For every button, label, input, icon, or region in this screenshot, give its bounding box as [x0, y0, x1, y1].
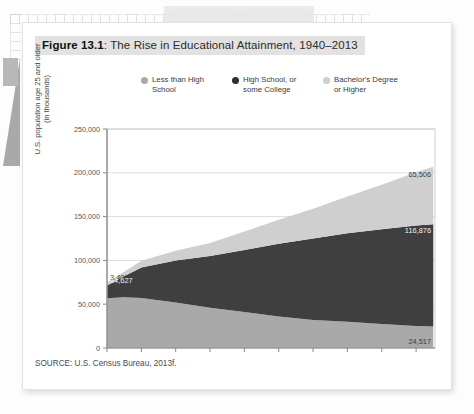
x-axis-tick-label: 1974 — [202, 354, 218, 356]
data-label: 24,517 — [408, 337, 431, 346]
legend-label: Bachelor's Degree or Higher — [334, 75, 400, 94]
figure-card: Figure 13.1: The Rise in Educational Att… — [22, 22, 452, 390]
stacked-area-chart: 250,000200,000150,000100,00050,000019401… — [23, 101, 451, 356]
data-label: 116,876 — [405, 226, 431, 235]
legend-item-high-school-some-college[interactable]: High School, or some College — [232, 75, 309, 94]
highlight-band — [164, 6, 314, 22]
legend-item-bachelors-degree-or-higher[interactable]: Bachelor's Degree or Higher — [323, 75, 400, 94]
figure-title: Figure 13.1: The Rise in Educational Att… — [35, 36, 365, 55]
x-axis-tick-label: 1986 — [271, 354, 287, 356]
data-label: 56,742 — [110, 289, 133, 298]
x-axis-tick-label: 1992 — [305, 354, 321, 356]
ruler-guide-vertical — [10, 14, 21, 62]
legend-label: High School, or some College — [243, 75, 309, 94]
x-axis-tick-label: 1980 — [236, 354, 252, 356]
x-axis-tick-label: 1998 — [339, 354, 355, 356]
figure-number: Figure 13.1 — [42, 39, 104, 51]
y-axis-tick-label: 50,000 — [78, 300, 100, 309]
chart-legend: Less than High School High School, or so… — [141, 75, 400, 94]
legend-swatch-icon — [232, 77, 239, 84]
y-axis-tick-label: 150,000 — [74, 212, 100, 221]
data-label: 14,627 — [110, 276, 133, 285]
legend-label: Less than High School — [152, 75, 218, 94]
y-axis-tick-label: 200,000 — [74, 168, 100, 177]
x-axis-tick-label: 2010 — [408, 354, 424, 356]
data-label: 65,506 — [408, 170, 431, 179]
legend-swatch-icon — [323, 77, 330, 84]
y-axis-tick-label: 100,000 — [74, 256, 100, 265]
x-axis-tick-label: 2004 — [374, 354, 390, 356]
source-note: SOURCE: U.S. Census Bureau, 2013f. — [35, 359, 177, 368]
x-axis-tick-label: 1960 — [133, 354, 149, 356]
legend-swatch-icon — [141, 77, 148, 84]
x-axis-tick-label: 1968 — [168, 354, 184, 356]
x-axis-tick-label: 1940 — [99, 354, 115, 356]
y-axis-title: U.S. population age 25 and older (in tho… — [33, 39, 51, 159]
page-side-graphic-top — [3, 58, 18, 86]
y-axis-tick-label: 0 — [96, 344, 100, 353]
y-axis-tick-label: 250,000 — [74, 125, 100, 134]
chart-area: U.S. population age 25 and older (in tho… — [23, 101, 451, 356]
figure-title-text: The Rise in Educational Attainment, 1940… — [110, 39, 357, 51]
legend-item-less-than-high-school[interactable]: Less than High School — [141, 75, 218, 94]
